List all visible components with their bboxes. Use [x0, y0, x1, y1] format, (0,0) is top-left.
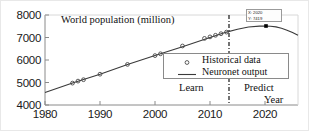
legend: Historical data Neuronet output	[163, 53, 289, 79]
legend-label-neuronet-output: Neuronet output	[202, 66, 267, 77]
y-tick-label-6000: 6000	[1, 54, 41, 66]
datatip-marker	[264, 24, 268, 28]
x-tick-label-2000: 2000	[132, 108, 178, 120]
datatip-annotation: X: 2020 Y: 7419	[246, 9, 282, 22]
x-tick-marks	[45, 101, 265, 105]
y-tick-label-8000: 8000	[1, 9, 41, 21]
x-tick-label-2020: 2020	[242, 108, 288, 120]
chart-title: World population (million)	[61, 14, 174, 25]
x-axis-label: Year	[264, 94, 283, 105]
legend-entry-neuronet-output: Neuronet output	[164, 67, 290, 80]
predict-region-label: Predict	[244, 82, 274, 93]
datatip-y-value: Y: 7419	[248, 16, 280, 22]
x-tick-label-2010: 2010	[187, 108, 233, 120]
learn-region-label: Learn	[179, 82, 203, 93]
y-tick-label-7000: 7000	[1, 32, 41, 44]
chart-figure: World population (million) 8000 7000 600…	[0, 0, 309, 131]
x-tick-label-1990: 1990	[77, 108, 123, 120]
x-tick-label-1980: 1980	[22, 108, 68, 120]
y-tick-label-5000: 5000	[1, 77, 41, 89]
legend-label-historical-data: Historical data	[202, 54, 261, 65]
legend-line-marker-icon	[176, 67, 198, 80]
